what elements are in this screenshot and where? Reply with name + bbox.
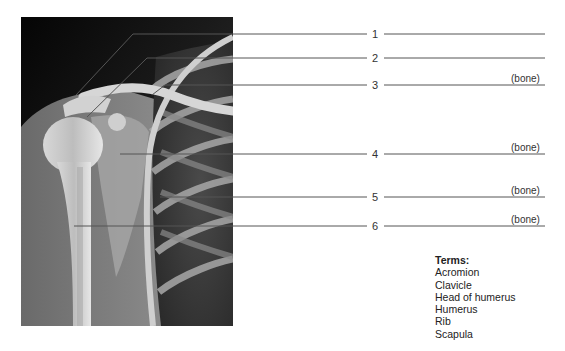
answer-hint-5: (bone): [511, 185, 540, 196]
answer-hint-4: (bone): [511, 142, 540, 153]
term-item: Clavicle: [435, 279, 516, 291]
term-item: Scapula: [435, 328, 516, 340]
answer-hint-6: (bone): [511, 214, 540, 225]
label-number-1: 1: [368, 28, 382, 40]
term-item: Head of humerus: [435, 291, 516, 303]
term-item: Humerus: [435, 303, 516, 315]
term-item: Rib: [435, 315, 516, 327]
shoulder-xray-image: [21, 17, 233, 326]
term-item: Acromion: [435, 266, 516, 278]
label-number-4: 4: [368, 148, 382, 160]
answer-hint-3: (bone): [511, 73, 540, 84]
terms-list: Acromion Clavicle Head of humerus Humeru…: [435, 266, 516, 340]
label-number-2: 2: [368, 52, 382, 64]
label-number-3: 3: [368, 79, 382, 91]
terms-title: Terms:: [435, 254, 516, 266]
label-number-5: 5: [368, 191, 382, 203]
label-number-6: 6: [368, 220, 382, 232]
terms-box: Terms: Acromion Clavicle Head of humerus…: [435, 254, 516, 340]
